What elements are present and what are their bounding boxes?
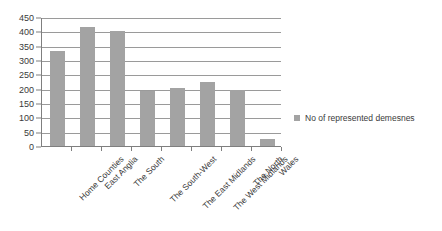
x-tick-mark (101, 147, 102, 151)
y-tick-label: 100 (19, 113, 34, 123)
bar-chart: 050100150200250300350400450 Home Countie… (0, 0, 442, 231)
x-axis-labels: Home CountiesEast AngliaThe SouthThe Sou… (0, 152, 300, 227)
y-tick-label: 250 (19, 70, 34, 80)
x-tick-mark (221, 147, 222, 151)
legend-swatch-icon (294, 115, 300, 121)
y-tick-label: 150 (19, 99, 34, 109)
y-tick-label: 0 (29, 142, 34, 152)
y-tick-label: 50 (24, 128, 34, 138)
chart-legend: No of represented demesnes (294, 113, 415, 123)
bar (80, 27, 95, 146)
y-tick-label: 450 (19, 13, 34, 23)
x-tick-mark (281, 147, 282, 151)
bar (200, 82, 215, 147)
x-tick-mark (251, 147, 252, 151)
bar (50, 51, 65, 146)
bar (170, 88, 185, 146)
plot-area (41, 18, 281, 147)
bar-series (42, 18, 281, 146)
bar (110, 31, 125, 146)
x-tick-mark (71, 147, 72, 151)
y-tick-label: 200 (19, 85, 34, 95)
y-tick-label: 350 (19, 42, 34, 52)
x-tick-mark (161, 147, 162, 151)
bar (260, 139, 275, 146)
y-axis: 050100150200250300350400450 (0, 18, 41, 147)
x-tick-mark (191, 147, 192, 151)
legend-entry-label: No of represented demesnes (305, 113, 415, 123)
y-tick-label: 400 (19, 27, 34, 37)
bar (230, 90, 245, 146)
bar (140, 91, 155, 146)
x-tick-mark (131, 147, 132, 151)
y-tick-label: 300 (19, 56, 34, 66)
